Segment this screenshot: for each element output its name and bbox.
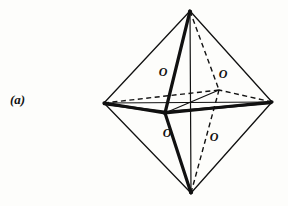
equator-left-segment (104, 104, 166, 112)
edge-top-right (190, 11, 272, 102)
panel-label: (a) (10, 92, 56, 108)
edge-left-back (104, 90, 219, 103)
left-vertex-node (103, 101, 107, 105)
right-vertex-node (269, 100, 273, 104)
edge-top-back (190, 11, 219, 90)
oxygen-label-upper-left: O (156, 66, 170, 78)
oxygen-label-lower-right: O (207, 131, 221, 143)
edge-bottom-front (165, 113, 191, 193)
equator-bold-lines (104, 103, 271, 112)
edge-top-front (165, 11, 190, 113)
top-apex-node (188, 10, 192, 14)
bottom-apex-node (189, 190, 193, 194)
octahedron-figure: (a) O O O O (0, 0, 288, 206)
edge-right-back (219, 90, 272, 102)
front-vertex-node (163, 111, 167, 115)
oxygen-label-upper-right: O (216, 68, 230, 80)
oxygen-label-lower-left: O (160, 127, 174, 139)
equator-right-segment (166, 103, 271, 112)
